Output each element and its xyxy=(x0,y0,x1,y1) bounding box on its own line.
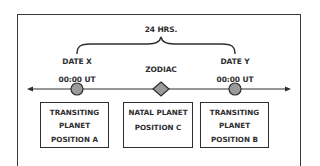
date-y-marker-icon xyxy=(229,83,241,95)
box-b-line-1: TRANSITING xyxy=(210,109,259,116)
box-a-line-1: TRANSITING xyxy=(50,109,99,116)
arrow-right-icon xyxy=(285,87,291,92)
date-x-label: DATE X xyxy=(62,58,91,66)
box-b-line-3: POSITION B xyxy=(211,136,258,143)
box-b-line-2: PLANET xyxy=(219,122,250,129)
date-y-label: DATE Y xyxy=(220,58,249,66)
transiting-planet-a-box: TRANSITING PLANET POSITION A xyxy=(40,102,109,148)
box-c-line-2: POSITION C xyxy=(135,124,182,131)
zodiac-label: ZODIAC xyxy=(145,66,177,74)
box-c-line-1: NATAL PLANET xyxy=(128,109,187,116)
date-y-time-label: 00:00 UT xyxy=(217,76,254,84)
date-x-marker-icon xyxy=(71,83,83,95)
natal-diamond-icon xyxy=(153,82,169,96)
brace-icon xyxy=(77,37,235,54)
transiting-planet-b-box: TRANSITING PLANET POSITION B xyxy=(200,102,269,148)
box-a-line-3: POSITION A xyxy=(51,136,98,143)
arrow-left-icon xyxy=(27,87,33,92)
date-x-time-label: 00:00 UT xyxy=(59,76,96,84)
span-label: 24 HRS. xyxy=(145,26,178,34)
natal-planet-c-box: NATAL PLANET POSITION C xyxy=(123,102,193,148)
box-a-line-2: PLANET xyxy=(59,122,90,129)
